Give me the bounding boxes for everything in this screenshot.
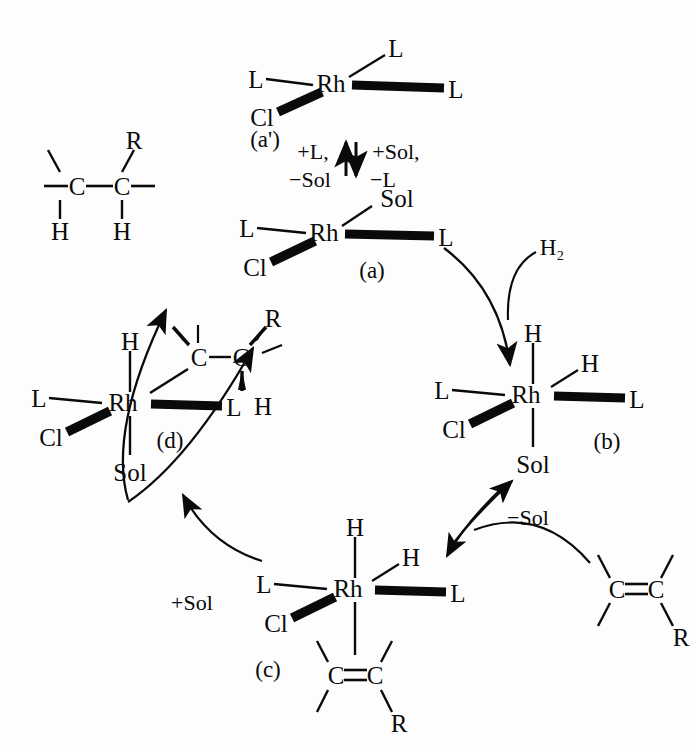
dihydrogen-reagent-label: H₂	[540, 236, 565, 259]
species-d-alkyl-carbon-2: C	[233, 345, 250, 370]
catalytic-cycle-diagram: L L L Cl Rh (a') +L, −Sol +Sol, −L L Sol…	[0, 0, 696, 745]
minus-sol-label: −Sol	[507, 507, 549, 529]
species-a-prime-ligand-left: L	[248, 67, 263, 92]
species-b-ligand-bottom: Sol	[516, 452, 549, 477]
species-d-tag: (d)	[157, 429, 184, 452]
product-alkane-carbon-1: C	[69, 174, 86, 199]
species-b-ligand-upper-right: H	[581, 351, 599, 376]
product-alkane-hydrogen-2: H	[113, 219, 131, 244]
free-alkene-carbon-2: C	[648, 577, 665, 602]
arrows-b-c-equilibrium	[447, 481, 512, 556]
species-b-ligand-top: H	[524, 321, 542, 346]
arrow-c-to-d	[183, 495, 262, 561]
species-c-ligand-left: L	[256, 572, 271, 597]
species-c-ligand-right: L	[450, 581, 465, 606]
species-b-ligand-right: L	[629, 387, 644, 412]
plus-sol-label: +Sol	[171, 592, 213, 614]
equilibrium-left-bottom-label: −Sol	[289, 169, 331, 191]
equilibrium-arrows	[346, 142, 356, 176]
species-d-ligand-lower-left: Cl	[39, 425, 63, 450]
product-alkane-r-group: R	[126, 128, 143, 153]
species-c-ligand-upper-right: H	[402, 545, 420, 570]
species-b-tag: (b)	[594, 430, 621, 453]
species-d-ligand-left: L	[31, 386, 46, 411]
species-a-prime-ligand-upper-right: L	[388, 36, 403, 61]
species-a-bonds	[257, 206, 434, 262]
equilibrium-left-top-label: +L,	[297, 141, 328, 163]
species-a-prime-ligand-right: L	[448, 77, 463, 102]
product-alkane-hydrogen-1: H	[51, 219, 69, 244]
species-a-ligand-upper-right: Sol	[380, 186, 413, 211]
species-a-tag: (a)	[359, 259, 385, 282]
species-c-metal-center: Rh	[333, 576, 362, 601]
species-d-alkyl-r-group: R	[265, 306, 282, 331]
product-alkane-carbon-2: C	[114, 174, 131, 199]
species-a-ligand-left: L	[239, 216, 254, 241]
species-d-alkyl-carbon-1: C	[191, 345, 208, 370]
species-a-ligand-lower-left: Cl	[243, 255, 267, 280]
species-a-prime-bonds	[266, 55, 444, 112]
species-d-metal-center: Rh	[108, 390, 137, 415]
species-c-ligand-top: H	[346, 515, 364, 540]
species-a-ligand-right: L	[438, 225, 453, 250]
species-b-ligand-left: L	[434, 378, 449, 403]
species-b-ligand-lower-left: Cl	[442, 417, 466, 442]
species-d-ligand-right: L	[226, 395, 241, 420]
species-c-alkene-carbon-2: C	[367, 663, 384, 688]
species-d-ligand-top: H	[121, 329, 139, 354]
free-alkene-r-group: R	[673, 625, 690, 650]
species-c-alkene-carbon-1: C	[328, 663, 345, 688]
species-a-metal-center: Rh	[309, 220, 338, 245]
equilibrium-right-top-label: +Sol,	[372, 141, 419, 163]
species-d-alkyl-hydrogen: H	[254, 394, 272, 419]
arrow-a-to-b	[444, 248, 536, 365]
species-c-tag: (c)	[255, 658, 281, 681]
product-alkane-bonds	[44, 150, 155, 219]
free-alkene-carbon-1: C	[609, 577, 626, 602]
species-c-ligand-lower-left: Cl	[264, 611, 288, 636]
species-a-prime-metal-center: Rh	[316, 71, 345, 96]
species-c-bonds	[274, 537, 446, 712]
species-a-prime-tag: (a')	[250, 128, 280, 151]
species-b-metal-center: Rh	[511, 382, 540, 407]
species-d-ligand-bottom: Sol	[113, 460, 146, 485]
species-c-alkene-r-group: R	[391, 711, 408, 736]
arrow-d-to-a	[128, 348, 253, 502]
